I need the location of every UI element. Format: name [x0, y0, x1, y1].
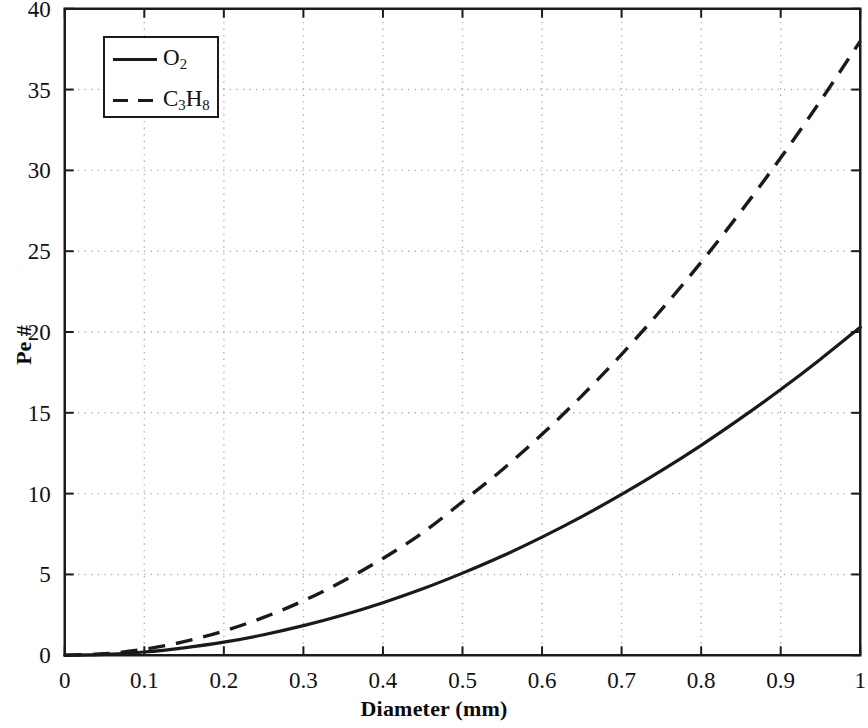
- x-tick-label: 0.4: [369, 669, 398, 692]
- legend-entry-c3h8: C3H8: [105, 79, 217, 120]
- x-tick-label: 0.6: [528, 669, 557, 692]
- x-tick-label: 1: [855, 669, 867, 692]
- x-tick-label: 0: [59, 669, 71, 692]
- y-tick-label: 25: [0, 240, 51, 263]
- legend-label-c3h8-element-1: C: [163, 86, 178, 111]
- y-axis-title: Pe #: [11, 305, 37, 385]
- x-tick-label: 0.7: [607, 669, 636, 692]
- x-tick-label: 0.2: [209, 669, 238, 692]
- legend-line-sample-dashed: [113, 93, 157, 107]
- y-tick-label: 5: [0, 563, 51, 586]
- y-tick-label: 35: [0, 78, 51, 101]
- x-axis-title: Diameter (mm): [0, 696, 868, 722]
- legend-label-o2-element: O: [163, 45, 180, 70]
- x-tick-label: 0.9: [766, 669, 795, 692]
- legend-entry-o2: O2: [105, 38, 217, 79]
- y-tick-label: 0: [0, 644, 51, 667]
- x-tick-label: 0.1: [130, 669, 159, 692]
- legend-label-o2: O2: [163, 46, 187, 72]
- chart-figure: 0510152025303540 00.10.20.30.40.50.60.70…: [0, 0, 868, 728]
- legend-label-c3h8-subscript-2: 8: [202, 97, 209, 113]
- series-line-c3h8: [65, 41, 861, 655]
- y-tick-label: 10: [0, 482, 51, 505]
- legend: O2 C3H8: [103, 36, 219, 118]
- y-tick-label: 30: [0, 159, 51, 182]
- legend-label-o2-subscript: 2: [180, 56, 187, 72]
- legend-line-sample-solid: [113, 52, 157, 66]
- y-tick-label: 40: [0, 0, 51, 20]
- legend-label-c3h8-element-2: H: [186, 86, 203, 111]
- legend-label-c3h8: C3H8: [163, 87, 210, 113]
- x-tick-label: 0.5: [448, 669, 477, 692]
- legend-label-c3h8-subscript-1: 3: [178, 97, 185, 113]
- x-tick-label: 0.3: [289, 669, 318, 692]
- y-tick-label: 15: [0, 401, 51, 424]
- x-tick-label: 0.8: [687, 669, 716, 692]
